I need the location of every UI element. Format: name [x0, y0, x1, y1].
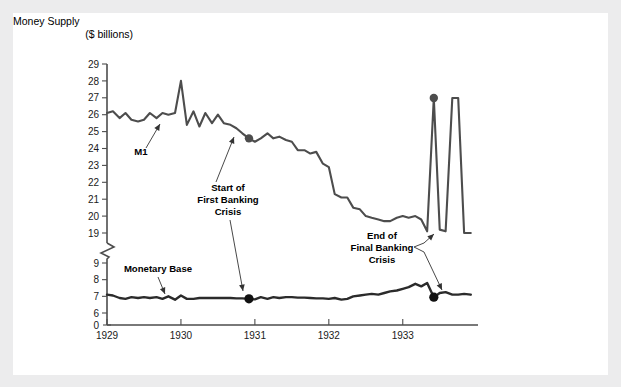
y-tick-label: 8: [93, 274, 99, 285]
monetary-base-series-label: Monetary Base: [124, 263, 192, 274]
x-tick-label: 1930: [170, 330, 193, 341]
y-tick-label: 19: [88, 228, 100, 239]
y-tick-label: 25: [88, 126, 100, 137]
m1-line: [107, 81, 471, 233]
data-point-marker: [430, 94, 438, 102]
data-point-marker: [429, 293, 438, 302]
y-tick-label: 24: [88, 143, 100, 154]
leader-connector: [414, 243, 424, 252]
annotation-start-crisis-line3: Crisis: [215, 206, 242, 217]
data-point-marker: [245, 134, 253, 142]
y-tick-label: 22: [88, 177, 100, 188]
annotation-start-crisis: Start of First Banking Crisis: [197, 182, 258, 217]
y-tick-label: 27: [88, 92, 100, 103]
annotation-start-crisis-line1: Start of: [211, 182, 245, 193]
m1-series-label: M1: [134, 146, 148, 157]
x-tick-labels: 19291930193119321933: [96, 330, 414, 341]
x-tick-label: 1931: [244, 330, 267, 341]
annotation-end-crisis: End of Final Banking Crisis: [351, 230, 414, 265]
annotation-end-crisis-line1: End of: [367, 230, 398, 241]
data-point-marker: [244, 294, 253, 303]
y-tick-label: 23: [88, 160, 100, 171]
annotation-start-crisis-line2: First Banking: [197, 194, 258, 205]
annotation-end-crisis-line3: Crisis: [369, 254, 396, 265]
y-tick-label: 9: [93, 258, 99, 269]
y-tick-label: 6: [93, 308, 99, 319]
leader-arrow: [424, 234, 434, 243]
x-tick-label: 1933: [392, 330, 415, 341]
leader-arrow: [230, 220, 245, 291]
y-tick-label: 28: [88, 76, 100, 87]
series-markers: [244, 94, 438, 304]
y-tick-label: 20: [88, 211, 100, 222]
leader-arrow: [158, 277, 165, 294]
annotation-end-crisis-line2: Final Banking: [351, 242, 414, 253]
leader-arrow: [216, 137, 234, 182]
y-tick-label: 0: [93, 320, 99, 331]
chart-page: Money Supply ($ billions) 29282726252423…: [0, 0, 621, 387]
leader-arrow: [146, 124, 160, 148]
y-tick-labels: 292827262524232221201998760: [88, 59, 100, 331]
y-tick-label: 7: [93, 291, 99, 302]
y-tick-label: 29: [88, 59, 100, 70]
chart-svg: 292827262524232221201998760 192919301931…: [0, 0, 621, 387]
y-tick-label: 21: [88, 194, 100, 205]
x-tick-label: 1929: [96, 330, 119, 341]
y-tick-label: 26: [88, 109, 100, 120]
x-tick-label: 1932: [318, 330, 341, 341]
